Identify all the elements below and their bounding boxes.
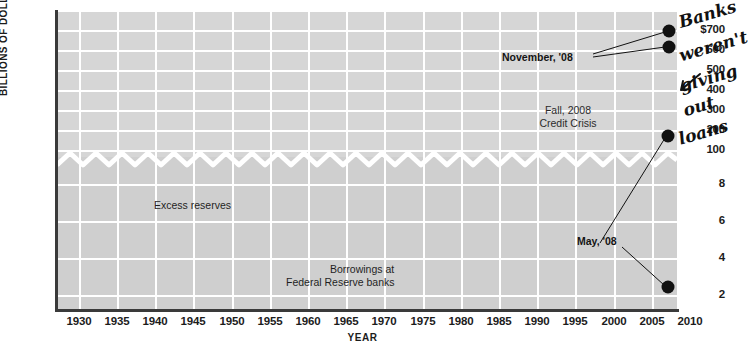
annotation-borrowings-line2: Federal Reserve banks [286,276,395,289]
annotation-borrowings-line1: Borrowings at [330,263,394,276]
axis-break-zigzag [57,145,677,175]
x-tick-1995: 1995 [553,315,597,327]
annotation-may-08: May, '08 [577,235,617,248]
gridline-h [57,70,677,72]
annotation-november-08: November, '08 [502,51,573,64]
annotation-fall-2008-line2: Credit Crisis [513,117,623,130]
y-tick-2: 2 [673,288,725,300]
x-tick-1970: 1970 [362,315,406,327]
gridline-h [57,30,677,32]
gridline-h [57,221,677,223]
y-axis-title: BILLIONS OF DOLLARS [0,0,9,96]
gridline-h [57,258,677,260]
handwriting-line4: out [681,94,716,119]
x-axis-title: YEAR [0,332,725,343]
x-tick-1945: 1945 [171,315,215,327]
plot-background-upper [57,12,677,157]
y-tick-8: 8 [673,177,725,189]
y-tick-4: 4 [673,251,725,263]
y-axis-line [55,10,58,312]
y-tick-6: 6 [673,214,725,226]
x-tick-2010: 2010 [668,315,712,327]
gridline-h [57,130,677,132]
gridline-h [57,184,677,186]
gridline-h [57,295,677,297]
annotation-fall-2008-line1: Fall, 2008 [513,104,623,117]
gridline-h [57,90,677,92]
x-axis-line [55,309,679,312]
annotation-excess-reserves: Excess reserves [154,199,231,212]
gridline-h [57,50,677,52]
